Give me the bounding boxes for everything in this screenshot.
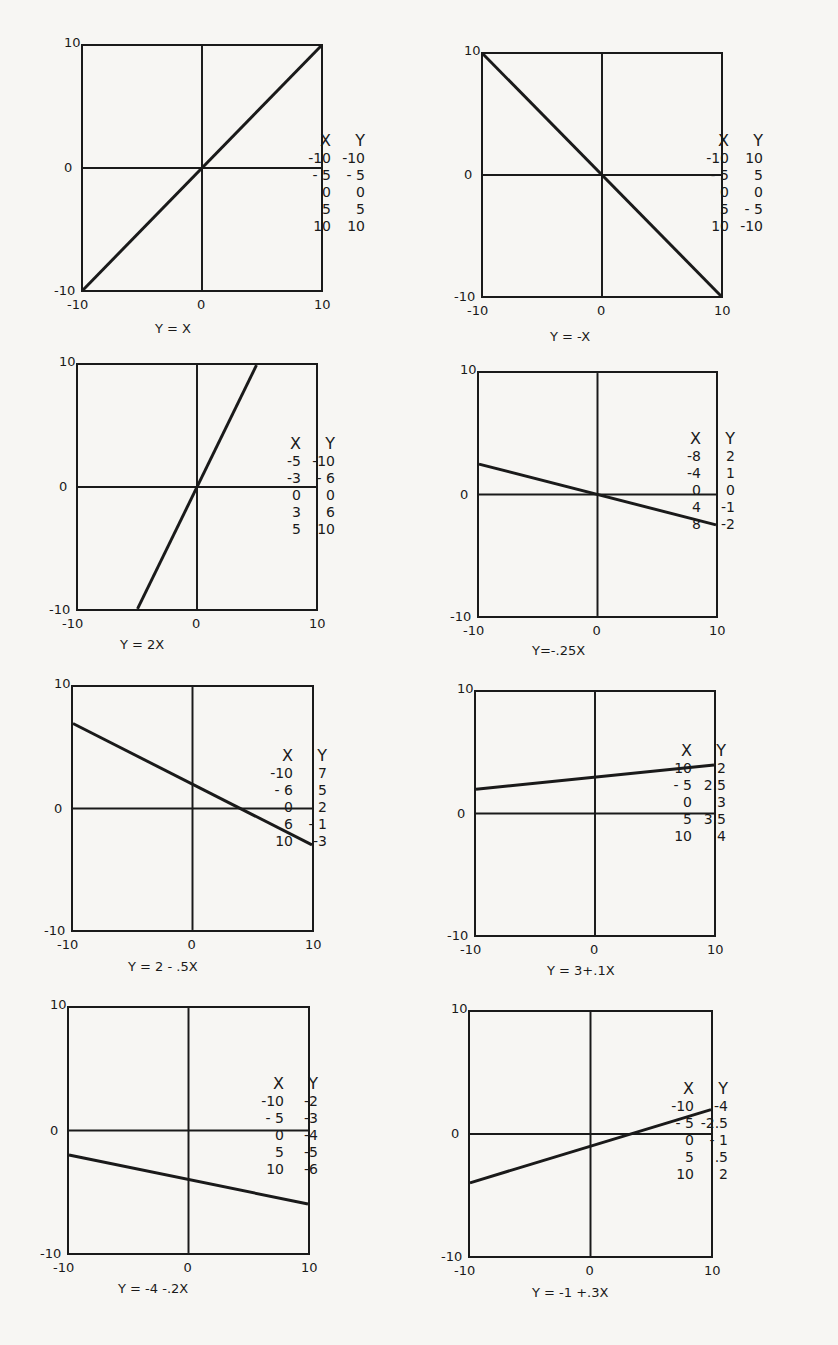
y-tick-label: 10 <box>457 682 474 696</box>
xy-value-table: XY-82-41004-18-2 <box>673 430 735 533</box>
plot-area <box>481 52 723 298</box>
x-value: - 5 <box>256 1110 284 1127</box>
xy-value-table: XY-10-10- 5- 500551010 <box>303 132 365 235</box>
x-column-header: X <box>303 132 331 150</box>
x-tick-label: -10 <box>467 304 488 318</box>
table-row: 510 <box>273 521 335 538</box>
table-row: - 5- 5 <box>303 167 365 184</box>
y-tick-label: 0 <box>460 488 468 502</box>
table-row: 10-3 <box>265 833 327 850</box>
x-value: 6 <box>265 816 293 833</box>
table-row: 5-5 <box>256 1144 318 1161</box>
table-row: 00 <box>673 482 735 499</box>
x-value: 0 <box>673 482 701 499</box>
y-tick-label: 0 <box>457 807 465 821</box>
y-tick-label: -10 <box>40 1247 61 1261</box>
x-value: 8 <box>673 516 701 533</box>
x-value: 0 <box>265 799 293 816</box>
equation-caption: Y = 3+.1X <box>547 964 615 978</box>
table-header: XY <box>265 747 327 765</box>
x-value: 5 <box>664 811 692 828</box>
y-tick-label: 0 <box>59 480 67 494</box>
table-row: 00 <box>273 487 335 504</box>
y-tick-label: 0 <box>64 161 72 175</box>
y-column-header: Y <box>293 747 327 765</box>
x-tick-label: 10 <box>707 943 724 957</box>
y-value: -4 <box>694 1098 728 1115</box>
table-header: XY <box>256 1075 318 1093</box>
y-tick-label: -10 <box>54 284 75 298</box>
y-value: -2.5 <box>694 1115 728 1132</box>
table-row: 55 <box>303 201 365 218</box>
x-value: 10 <box>666 1166 694 1183</box>
x-value: - 5 <box>701 167 729 184</box>
y-value: -6 <box>284 1161 318 1178</box>
y-column-header: Y <box>692 742 726 760</box>
table-row: 6- 1 <box>265 816 327 833</box>
table-row: -5-10 <box>273 453 335 470</box>
x-value: -4 <box>673 465 701 482</box>
equation-caption: Y=-.25X <box>532 644 585 658</box>
y-value: -10 <box>301 453 335 470</box>
equation-caption: Y = X <box>155 322 191 336</box>
x-value: - 5 <box>303 167 331 184</box>
x-tick-label: 10 <box>314 298 331 312</box>
equation-caption: Y = 2 - .5X <box>128 960 198 974</box>
y-column-header: Y <box>284 1075 318 1093</box>
y-tick-label: 10 <box>460 363 477 377</box>
y-value: 2 <box>692 760 726 777</box>
y-tick-label: 0 <box>50 1124 58 1138</box>
x-value: 0 <box>666 1132 694 1149</box>
y-tick-label: -10 <box>454 290 475 304</box>
y-value: 5 <box>729 167 763 184</box>
x-tick-label: 0 <box>593 624 601 638</box>
y-value: 10 <box>331 218 365 235</box>
x-tick-label: -10 <box>57 938 78 952</box>
y-value: - 1 <box>694 1132 728 1149</box>
table-row: 36 <box>273 504 335 521</box>
table-row: 00 <box>701 184 763 201</box>
x-tick-label: -10 <box>62 617 83 631</box>
table-header: XY <box>666 1080 728 1098</box>
x-value: 10 <box>664 828 692 845</box>
y-value: -2 <box>701 516 735 533</box>
x-value: 5 <box>273 521 301 538</box>
equation-caption: Y = -X <box>550 330 590 344</box>
x-value: -3 <box>273 470 301 487</box>
y-tick-label: -10 <box>441 1250 462 1264</box>
table-row: -41 <box>673 465 735 482</box>
xy-value-table: XY-102- 52.50353.5104 <box>664 742 726 845</box>
y-value: .5 <box>694 1149 728 1166</box>
y-column-header: Y <box>331 132 365 150</box>
y-value: - 1 <box>293 816 327 833</box>
y-value: 5 <box>331 201 365 218</box>
y-value: 3 <box>692 794 726 811</box>
x-value: 0 <box>701 184 729 201</box>
y-tick-label: 10 <box>54 677 71 691</box>
table-row: 0- 1 <box>666 1132 728 1149</box>
x-tick-label: 10 <box>309 617 326 631</box>
table-row: - 55 <box>701 167 763 184</box>
table-row: 00 <box>303 184 365 201</box>
table-row: 4-1 <box>673 499 735 516</box>
y-tick-label: -10 <box>450 610 471 624</box>
table-row: 02 <box>265 799 327 816</box>
y-value: 0 <box>701 482 735 499</box>
y-value: 2 <box>293 799 327 816</box>
table-row: -102 <box>664 760 726 777</box>
y-value: -1 <box>701 499 735 516</box>
x-value: 4 <box>673 499 701 516</box>
x-tick-label: 0 <box>597 304 605 318</box>
y-value: 2.5 <box>692 777 726 794</box>
table-row: 102 <box>666 1166 728 1183</box>
x-value: -10 <box>265 765 293 782</box>
table-row: - 5-2.5 <box>666 1115 728 1132</box>
table-row: 5- 5 <box>701 201 763 218</box>
y-value: 3.5 <box>692 811 726 828</box>
table-row: 0-4 <box>256 1127 318 1144</box>
xy-value-table: XY-10-2- 5-30-45-510-6 <box>256 1075 318 1178</box>
y-value: -5 <box>284 1144 318 1161</box>
table-row: 10-10 <box>701 218 763 235</box>
x-value: 5 <box>701 201 729 218</box>
y-value: 7 <box>293 765 327 782</box>
